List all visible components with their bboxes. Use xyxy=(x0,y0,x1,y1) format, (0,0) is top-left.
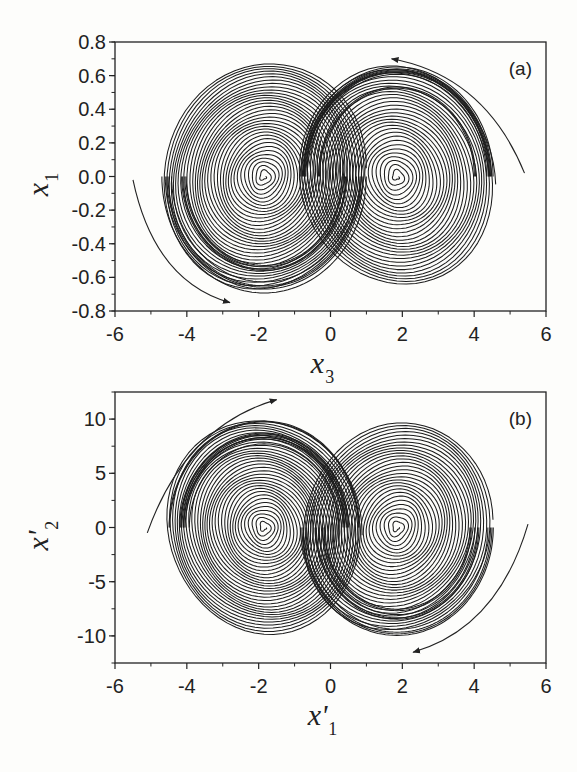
x-tick-label: -6 xyxy=(106,675,124,697)
y-tick-label: 0.8 xyxy=(78,31,106,53)
x-axis: -6-4-20246 xyxy=(106,663,551,697)
x-tick-label: 6 xyxy=(540,675,551,697)
x-tick-label: 6 xyxy=(540,323,551,345)
x-tick-label: 0 xyxy=(325,323,336,345)
y-tick-label: -0.4 xyxy=(72,233,106,255)
figure: -6-4-202460.80.60.40.20.0-0.2-0.4-0.6-0.… xyxy=(0,0,577,772)
y-axis: 0.80.60.40.20.0-0.2-0.4-0.6-0.8 xyxy=(72,31,115,322)
x-axis-label: x3 xyxy=(310,346,334,387)
attractor-trajectory xyxy=(162,64,496,293)
y-tick-label: -10 xyxy=(77,625,106,647)
y-tick-label: 5 xyxy=(95,462,106,484)
chart-panel-b: -6-4-202461050-5-10(b)x'1x'2 xyxy=(21,392,552,739)
y-tick-label: -0.6 xyxy=(72,266,106,288)
y-tick-label: 0.6 xyxy=(78,65,106,87)
y-tick-label: 0 xyxy=(95,517,106,539)
x-tick-label: 2 xyxy=(397,323,408,345)
y-axis-label: x'2 xyxy=(21,521,62,552)
panel-label: (a) xyxy=(509,58,532,79)
y-tick-label: -5 xyxy=(88,571,106,593)
y-axis: 1050-5-10 xyxy=(77,392,115,663)
x-axis: -6-4-20246 xyxy=(106,311,551,345)
y-tick-label: 10 xyxy=(84,408,106,430)
attractor-trajectory xyxy=(167,421,493,635)
x-tick-label: -6 xyxy=(106,323,124,345)
x-tick-label: -4 xyxy=(178,675,196,697)
x-tick-label: -2 xyxy=(250,323,268,345)
y-tick-label: -0.8 xyxy=(72,300,106,322)
x-tick-label: 4 xyxy=(469,675,480,697)
x-tick-label: -4 xyxy=(178,323,196,345)
y-tick-label: -0.2 xyxy=(72,199,106,221)
panel-label: (b) xyxy=(509,408,532,429)
y-tick-label: 0.2 xyxy=(78,132,106,154)
chart-panel-a: -6-4-202460.80.60.40.20.0-0.2-0.4-0.6-0.… xyxy=(21,31,552,387)
x-tick-label: 4 xyxy=(469,323,480,345)
x-axis-label: x'1 xyxy=(307,698,338,739)
y-axis-label: x1 xyxy=(21,173,62,197)
y-tick-label: 0.4 xyxy=(78,98,106,120)
x-tick-label: -2 xyxy=(250,675,268,697)
x-tick-label: 2 xyxy=(397,675,408,697)
x-tick-label: 0 xyxy=(325,675,336,697)
y-tick-label: 0.0 xyxy=(78,166,106,188)
